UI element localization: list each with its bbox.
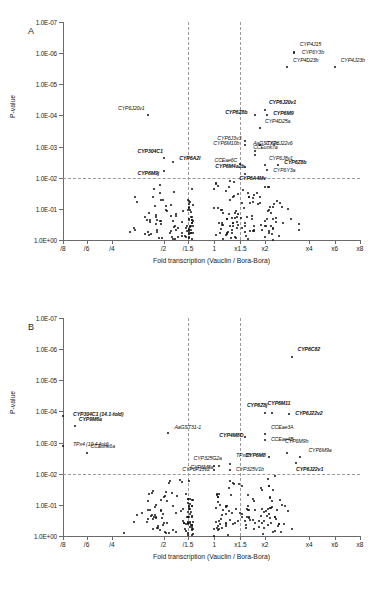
data-point bbox=[150, 233, 152, 235]
data-point bbox=[274, 475, 276, 477]
data-point bbox=[190, 211, 192, 213]
gene-label: CYP6M9a bbox=[308, 448, 331, 453]
data-point bbox=[232, 225, 234, 227]
x-tick bbox=[265, 240, 266, 244]
data-point bbox=[287, 510, 289, 512]
data-point bbox=[226, 232, 228, 234]
data-point bbox=[225, 525, 227, 527]
data-point bbox=[161, 517, 163, 519]
data-point bbox=[295, 462, 297, 464]
data-point bbox=[190, 229, 192, 231]
data-point bbox=[155, 517, 157, 519]
y-tick-label: 1.0E-01 bbox=[36, 206, 57, 213]
data-point bbox=[192, 204, 194, 206]
gene-label: CYP6M4a2b bbox=[215, 164, 244, 169]
data-point bbox=[225, 523, 227, 525]
y-tick-label: 1.0E-05 bbox=[36, 81, 57, 88]
data-point bbox=[167, 432, 169, 434]
y-tick-label: 1.0E-06 bbox=[36, 346, 57, 353]
data-point bbox=[177, 236, 179, 238]
data-point bbox=[151, 492, 153, 494]
data-point bbox=[217, 496, 219, 498]
data-point bbox=[219, 232, 221, 234]
data-point bbox=[213, 528, 215, 530]
data-point bbox=[234, 212, 236, 214]
gene-label: CYP4D23b bbox=[293, 58, 318, 63]
data-point bbox=[222, 212, 224, 214]
data-point bbox=[268, 230, 270, 232]
data-point bbox=[275, 217, 277, 219]
x-tick bbox=[188, 536, 189, 540]
threshold-line-horizontal bbox=[63, 474, 360, 475]
data-point bbox=[260, 515, 262, 517]
data-point bbox=[268, 456, 270, 458]
x-tick bbox=[335, 536, 336, 540]
data-point bbox=[190, 511, 192, 513]
data-point bbox=[290, 218, 292, 220]
data-point bbox=[254, 509, 256, 511]
gene-label: CCEae6C bbox=[214, 158, 237, 163]
y-tick bbox=[59, 53, 63, 54]
data-point bbox=[180, 510, 182, 512]
data-point bbox=[266, 515, 268, 517]
data-point bbox=[219, 504, 221, 506]
data-point bbox=[162, 513, 164, 515]
data-point bbox=[163, 522, 165, 524]
data-point bbox=[175, 215, 177, 217]
data-point bbox=[236, 216, 238, 218]
data-point bbox=[271, 233, 273, 235]
data-point bbox=[218, 493, 220, 495]
data-point bbox=[134, 196, 136, 198]
x-tick-label: /2 bbox=[161, 541, 166, 548]
y-tick-label: 1.0E-03 bbox=[36, 144, 57, 151]
gene-label: CYP6M9 bbox=[273, 111, 293, 116]
data-point bbox=[86, 452, 88, 454]
data-point bbox=[278, 235, 280, 237]
data-point bbox=[279, 202, 281, 204]
x-tick-label: /2 bbox=[161, 245, 166, 252]
data-point bbox=[147, 231, 149, 233]
data-point bbox=[259, 196, 261, 198]
y-tick bbox=[59, 505, 63, 506]
x-tick bbox=[87, 536, 88, 540]
x-tick bbox=[164, 240, 165, 244]
data-point bbox=[213, 535, 215, 537]
data-point bbox=[272, 239, 274, 241]
gene-label: CYP4J15 bbox=[300, 42, 321, 47]
data-point bbox=[293, 52, 295, 54]
data-point bbox=[172, 161, 174, 163]
data-point bbox=[253, 500, 255, 502]
data-point bbox=[233, 483, 235, 485]
data-point bbox=[237, 213, 239, 215]
y-tick-label: 1.0E-02 bbox=[36, 471, 57, 478]
data-point bbox=[155, 214, 157, 216]
data-point bbox=[146, 521, 148, 523]
data-point bbox=[269, 206, 271, 208]
gene-label: CYP6C82 bbox=[298, 347, 321, 352]
data-point bbox=[258, 526, 260, 528]
panel-b-letter: B bbox=[28, 322, 34, 332]
data-point bbox=[249, 202, 251, 204]
y-tick bbox=[59, 147, 63, 148]
data-point bbox=[184, 528, 186, 530]
data-point bbox=[181, 232, 183, 234]
y-tick-label: 1.0E-04 bbox=[36, 408, 57, 415]
data-point bbox=[215, 183, 217, 185]
panel-a-letter: A bbox=[28, 26, 34, 36]
data-point bbox=[176, 495, 178, 497]
data-point bbox=[154, 506, 156, 508]
data-point bbox=[217, 185, 219, 187]
data-point bbox=[268, 513, 270, 515]
data-point bbox=[172, 529, 174, 531]
gene-label: CCEae3A bbox=[271, 425, 294, 430]
y-tick bbox=[59, 209, 63, 210]
data-point bbox=[218, 222, 220, 224]
data-point bbox=[141, 512, 143, 514]
data-point bbox=[229, 480, 231, 482]
data-point bbox=[174, 225, 176, 227]
data-point bbox=[163, 496, 165, 498]
data-point bbox=[231, 217, 233, 219]
data-point bbox=[334, 66, 336, 68]
data-point bbox=[146, 219, 148, 221]
x-axis-title-a: Fold transcription (Vauclin / Bora-Bora) bbox=[63, 257, 360, 264]
